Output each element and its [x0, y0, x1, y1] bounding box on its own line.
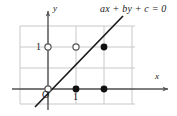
filled-point-2-1: [101, 44, 108, 51]
origin-label: O: [42, 90, 49, 100]
y-axis-label: y: [53, 4, 57, 13]
x-axis-tick-label-1: 1: [73, 92, 78, 102]
x-axis-label: x: [155, 72, 159, 81]
filled-point-2-0: [101, 86, 108, 93]
line-equation-label: ax + by + c = 0: [100, 4, 167, 14]
coordinate-plane-figure: ax + by + c = 0 y x 1 1 O: [0, 0, 177, 116]
x-axis: [12, 87, 168, 92]
y-axis-tick-label-1: 1: [36, 42, 41, 52]
open-point-0-1: [45, 44, 51, 50]
open-point-1-1: [73, 44, 79, 50]
graph-canvas: [0, 0, 177, 116]
